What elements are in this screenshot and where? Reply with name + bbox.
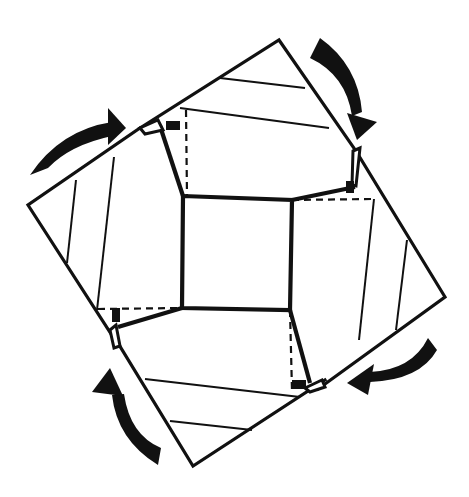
tuck-tabs	[110, 120, 360, 392]
tuck-mark-bottom	[292, 380, 306, 389]
fold-line-left	[98, 308, 182, 309]
tuck-mark-left	[112, 308, 120, 322]
origami-diagram	[0, 0, 469, 497]
fold-line-top	[186, 110, 187, 196]
tuck-mark-right	[346, 181, 354, 193]
tuck-mark-top	[166, 121, 180, 130]
center-square	[182, 196, 292, 310]
